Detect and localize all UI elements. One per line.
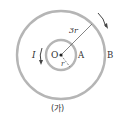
current-label: I	[31, 50, 36, 60]
inner-radius-label: r	[61, 60, 65, 68]
concentric-loops-diagram: 3r r O A B I (가)	[0, 0, 117, 131]
loop-B-label: B	[107, 50, 113, 60]
outer-arrowhead-icon	[104, 23, 108, 29]
inner-arrowhead-icon	[39, 60, 43, 65]
center-point	[59, 53, 62, 56]
center-label: O	[51, 50, 58, 60]
loop-A-label: A	[77, 50, 85, 60]
outer-radius-label: 3r	[69, 26, 79, 35]
figure-caption: (가)	[51, 104, 64, 113]
inner-current-arrow-icon	[40, 48, 42, 62]
